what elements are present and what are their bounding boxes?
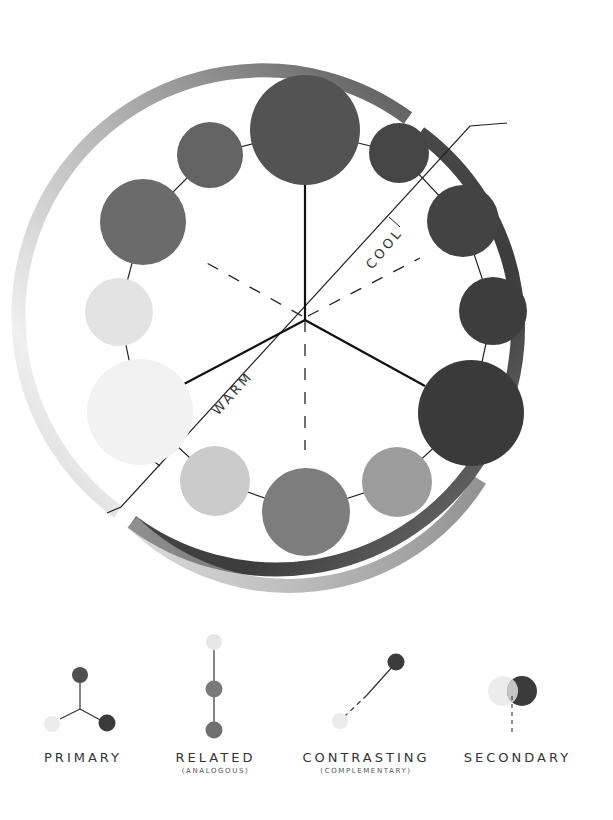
swatch-right (459, 277, 527, 345)
legend-sublabel-related: (ANALOGOUS) (168, 767, 263, 775)
primary-icon (44, 667, 116, 732)
color-wheel-diagram: COOL WARM (0, 0, 613, 820)
swatch-top-left (177, 122, 243, 188)
legend-label-related: RELATED (168, 750, 263, 765)
legend-sublabel-contrasting: (COMPLEMENTARY) (296, 767, 436, 775)
legend-label-secondary: SECONDARY (460, 750, 575, 765)
swatch-bottom-left (180, 446, 250, 516)
related-icon (206, 634, 223, 739)
swatch-bottom (262, 468, 350, 556)
swatch-right-upper (427, 185, 499, 257)
swatch-left (85, 278, 153, 346)
swatch-left-upper (100, 179, 186, 265)
swatch-left-lower (87, 359, 193, 465)
swatch-top-right (369, 123, 429, 183)
secondary-icon (488, 676, 537, 732)
legend-label-primary: PRIMARY (38, 750, 128, 765)
secondary-spokes (205, 258, 420, 450)
legend-label-contrasting: CONTRASTING (296, 750, 436, 765)
swatch-top (250, 75, 360, 185)
contrasting-icon (332, 654, 405, 730)
cool-label: COOL (363, 225, 406, 272)
swatch-bottom-right (362, 447, 432, 517)
swatch-right-lower (418, 360, 524, 466)
warm-label: WARM (209, 368, 256, 418)
